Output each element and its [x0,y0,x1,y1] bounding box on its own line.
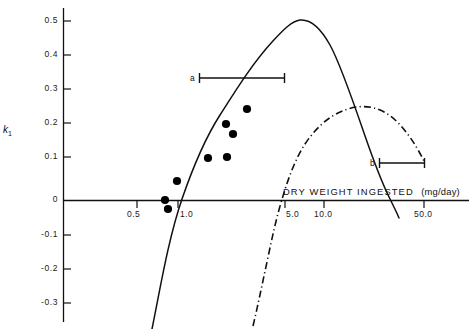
ytick-label: -0.1 [14,229,58,239]
chart-figure: 0.5 0.4 0.3 0.2 0.1 0 -0.1 -0.2 -0.3 0.5… [0,0,469,329]
data-point [173,177,181,185]
data-point [222,120,230,128]
y-axis-title-subscript: 1 [8,130,12,137]
data-point [161,196,169,204]
x-axis-title-text: DRY WEIGHT INGESTED [283,186,414,197]
ytick-label: -0.3 [14,297,58,307]
data-point [204,154,212,162]
dash-dot-response-curve [253,107,425,326]
x-axis-title: DRY WEIGHT INGESTED (mg/day) [283,186,460,197]
y-axis-title: k1 [3,124,12,137]
solid-response-curve [152,20,399,329]
ytick-label: 0 [18,194,58,204]
xtick-label: 0.5 [127,209,140,219]
range-bar-b [379,158,425,168]
ytick-label: -0.2 [14,263,58,273]
plot-canvas [0,0,469,329]
xtick-label: 50.0 [414,209,433,219]
x-axis-title-units: (mg/day) [421,186,460,197]
xtick-label: 5.0 [286,209,299,219]
scatter-points [161,105,251,213]
data-point [164,205,172,213]
ytick-label: 0.3 [18,83,58,93]
ytick-label: 0.1 [18,151,58,161]
xtick-label: 1.0 [180,209,193,219]
data-point [223,153,231,161]
range-bar-b-label: b [370,158,375,168]
ytick-label: 0.2 [18,117,58,127]
data-point [243,105,251,113]
y-axis-ticks [64,21,72,303]
xtick-label: 10.0 [314,209,333,219]
ytick-label: 0.5 [18,15,58,25]
ytick-label: 0.4 [18,49,58,59]
range-bar-a-label: a [190,73,195,83]
data-point [229,130,237,138]
